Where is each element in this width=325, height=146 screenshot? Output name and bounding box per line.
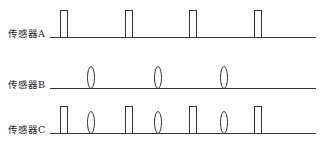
ellipse-marker — [155, 67, 162, 89]
pulse-marker — [255, 11, 262, 38]
ellipse-marker — [221, 67, 228, 89]
ellipse-marker — [155, 112, 162, 134]
pulse-marker — [61, 107, 68, 134]
ellipse-marker — [221, 112, 228, 134]
pulse-marker — [126, 11, 133, 38]
pulse-marker — [61, 11, 68, 38]
ellipse-marker — [88, 112, 95, 134]
pulse-marker — [126, 107, 133, 134]
ellipse-marker — [88, 67, 95, 89]
pulse-marker — [190, 107, 197, 134]
sensor-timing-diagram — [0, 0, 325, 146]
pulse-marker — [190, 11, 197, 38]
pulse-marker — [255, 107, 262, 134]
